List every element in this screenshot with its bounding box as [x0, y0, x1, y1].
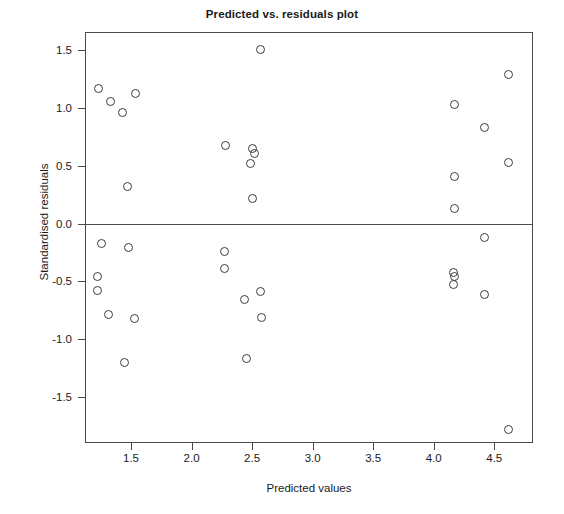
scatter-plot-figure: Predicted vs. residuals plot 1.51.00.50.… — [0, 0, 564, 514]
data-point — [130, 314, 139, 323]
data-point — [450, 100, 459, 109]
data-point — [256, 45, 265, 54]
chart-title: Predicted vs. residuals plot — [0, 8, 564, 20]
x-tick-mark — [252, 443, 253, 450]
data-point — [93, 272, 102, 281]
y-tick-label-text: -1.5 — [32, 391, 72, 403]
x-tick-label: 2.0 — [162, 452, 222, 464]
x-axis-title: Predicted values — [85, 482, 533, 494]
x-tick-mark — [494, 443, 495, 450]
zero-reference-line — [85, 224, 533, 225]
y-tick-mark — [78, 397, 85, 398]
y-tick-mark — [78, 166, 85, 167]
plot-frame — [85, 32, 533, 443]
x-tick-label: 4.5 — [464, 452, 524, 464]
x-tick-mark — [373, 443, 374, 450]
x-tick-label: 3.0 — [283, 452, 343, 464]
data-point — [248, 194, 257, 203]
y-tick-mark — [78, 339, 85, 340]
x-tick-label: 2.5 — [222, 452, 282, 464]
data-point — [123, 182, 132, 191]
data-point — [480, 290, 489, 299]
data-point — [221, 141, 230, 150]
data-point — [449, 280, 458, 289]
data-point — [242, 354, 251, 363]
data-point — [504, 425, 513, 434]
y-tick-mark — [78, 281, 85, 282]
data-point — [220, 264, 229, 273]
x-tick-mark — [192, 443, 193, 450]
x-tick-mark — [313, 443, 314, 450]
y-axis-title: Standardised residuals — [38, 92, 50, 352]
data-point — [220, 247, 229, 256]
x-tick-label: 3.5 — [343, 452, 403, 464]
x-tick-mark — [131, 443, 132, 450]
y-tick-mark — [78, 108, 85, 109]
data-point — [131, 89, 140, 98]
x-tick-label: 4.0 — [404, 452, 464, 464]
data-point — [250, 149, 259, 158]
data-point — [106, 97, 115, 106]
data-point — [257, 313, 266, 322]
x-tick-mark — [434, 443, 435, 450]
data-point — [450, 204, 459, 213]
y-tick-mark — [78, 50, 85, 51]
data-point — [480, 233, 489, 242]
data-point — [104, 310, 113, 319]
y-tick-label-text: 1.5 — [32, 44, 72, 56]
data-point — [94, 84, 103, 93]
data-point — [93, 286, 102, 295]
y-tick-mark — [78, 224, 85, 225]
x-tick-label: 1.5 — [101, 452, 161, 464]
data-point — [450, 172, 459, 181]
